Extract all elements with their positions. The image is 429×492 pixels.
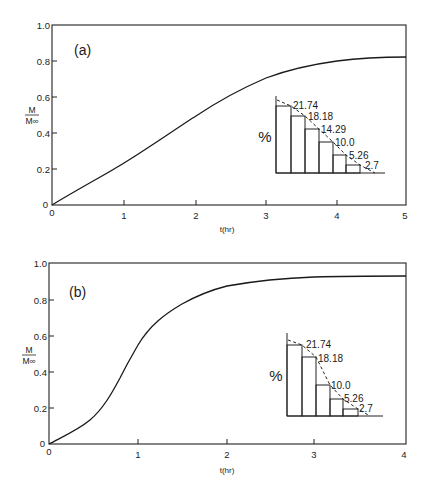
plot-frame-b — [49, 263, 406, 444]
x-tick-label: 5 — [402, 210, 407, 221]
y-label-numerator: M — [28, 105, 35, 115]
inset-percent-label-b: % — [269, 367, 282, 384]
y-tick-label: 1.0 — [37, 20, 50, 31]
inset-value-label: 2.7 — [359, 403, 373, 414]
x-axis-label-a: t(hr) — [220, 225, 235, 234]
x-axis-label-b: t(hr) — [220, 466, 235, 475]
plot-frame-a — [52, 25, 406, 205]
y-tick-label: 1.0 — [34, 258, 47, 269]
release-curve-b — [49, 276, 406, 444]
y-origin-label: 0 — [40, 438, 45, 449]
x-ticks-a — [124, 200, 337, 205]
x-ticks-b — [138, 439, 314, 444]
inset-percent-label-a: % — [258, 128, 271, 145]
inset-value-label: 2.7 — [365, 160, 379, 171]
x-tick-label: 3 — [311, 449, 316, 460]
x-tick-label: 2 — [224, 449, 229, 460]
y-label-numerator: M — [25, 345, 32, 355]
release-curve-a — [52, 57, 406, 205]
panel-b: 1.0 0.8 0.6 0.4 0.2 0 0 1 2 3 4 t(hr) M … — [22, 258, 407, 475]
inset-value-label: 14.29 — [321, 124, 346, 135]
panel-a: 1.0 0.8 0.6 0.4 0.2 0 0 1 2 3 4 5 t(hr) … — [25, 20, 408, 234]
x-tick-label: 1 — [121, 210, 126, 221]
inset-value-label: 21.74 — [306, 339, 331, 350]
figure: 1.0 0.8 0.6 0.4 0.2 0 0 1 2 3 4 5 t(hr) … — [0, 0, 429, 492]
inset-value-label: 18.18 — [308, 111, 333, 122]
y-tick-label: 0.8 — [37, 56, 50, 67]
y-tick-label: 0.2 — [37, 164, 50, 175]
y-origin-label: 0 — [43, 199, 48, 210]
y-tick-label: 0.8 — [34, 295, 47, 306]
x-tick-label: 1 — [135, 449, 140, 460]
inset-value-label: 18.18 — [318, 353, 343, 364]
panel-label-b: (b) — [69, 284, 86, 300]
x-tick-label: 4 — [401, 449, 406, 460]
x-origin-label: 0 — [49, 207, 54, 218]
y-tick-label: 0.6 — [34, 331, 47, 342]
y-ticks-a — [52, 61, 57, 169]
y-ticks-b — [49, 300, 54, 408]
y-tick-label: 0.6 — [37, 92, 50, 103]
y-label-denominator: M∞ — [25, 116, 38, 126]
inset-value-label: 10.0 — [335, 137, 355, 148]
x-tick-label: 3 — [263, 210, 268, 221]
y-axis-label-a: M M∞ — [25, 105, 39, 126]
x-tick-label: 2 — [193, 210, 198, 221]
y-tick-label: 0.4 — [37, 128, 50, 139]
inset-value-label: 10.0 — [331, 380, 351, 391]
panel-label-a: (a) — [74, 42, 91, 58]
x-origin-label: 0 — [46, 446, 51, 457]
y-label-denominator: M∞ — [22, 356, 35, 366]
inset-value-label: 21.74 — [293, 100, 318, 111]
y-tick-label: 0.4 — [34, 367, 47, 378]
y-tick-label: 0.2 — [34, 403, 47, 414]
y-axis-label-b: M M∞ — [22, 345, 36, 366]
x-tick-label: 4 — [334, 210, 339, 221]
